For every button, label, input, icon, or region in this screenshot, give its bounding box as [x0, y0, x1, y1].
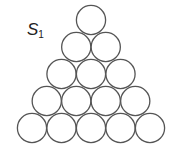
circle	[121, 86, 150, 115]
circle	[32, 86, 61, 115]
circle	[76, 113, 105, 142]
circle	[91, 32, 120, 61]
circle	[106, 59, 135, 88]
circle	[76, 59, 105, 88]
circle	[47, 59, 76, 88]
circle	[76, 5, 105, 34]
circle	[106, 113, 135, 142]
circle-triangle-diagram	[0, 0, 173, 158]
circle	[62, 32, 91, 61]
circle	[91, 86, 120, 115]
circle	[62, 86, 91, 115]
circle	[135, 113, 164, 142]
circle	[47, 113, 76, 142]
circle	[17, 113, 46, 142]
